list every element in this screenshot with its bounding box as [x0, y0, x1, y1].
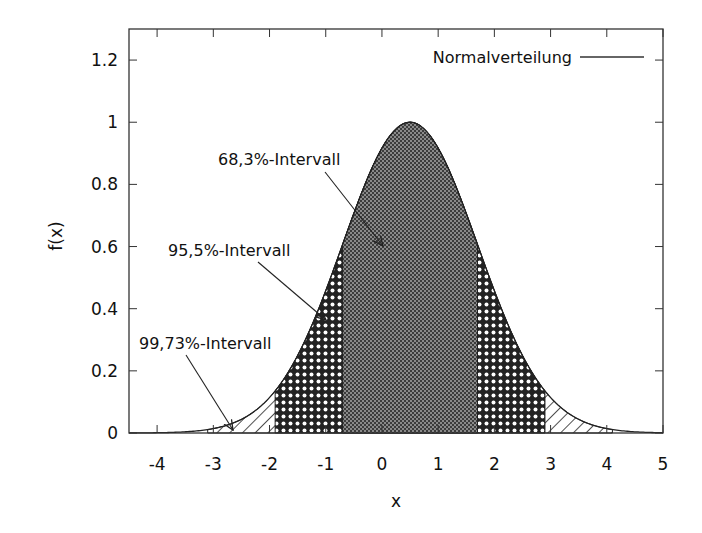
annotation-95: 95,5%-Intervall	[168, 241, 290, 260]
legend-label: Normalverteilung	[433, 48, 572, 67]
x-tick-label: -4	[149, 454, 166, 474]
x-tick-label: 3	[545, 454, 556, 474]
y-tick-label: 0.6	[91, 237, 118, 257]
x-tick-label: 5	[658, 454, 669, 474]
y-tick-label: 1	[107, 112, 118, 132]
y-tick-label: 0.8	[91, 174, 118, 194]
x-tick-label: -3	[205, 454, 222, 474]
x-tick-label: 1	[433, 454, 444, 474]
x-tick-label: 0	[377, 454, 388, 474]
x-axis-label: x	[391, 491, 401, 511]
x-tick-label: 2	[489, 454, 500, 474]
normal-distribution-chart: -4-3-2-101234500.20.40.60.811.2 Normalve…	[0, 0, 702, 533]
x-tick-label: 4	[601, 454, 612, 474]
arrow	[258, 262, 326, 320]
y-tick-label: 0.2	[91, 361, 118, 381]
annotation-68: 68,3%-Intervall	[218, 150, 340, 169]
y-tick-label: 0	[107, 423, 118, 443]
y-tick-label: 0.4	[91, 299, 118, 319]
x-tick-label: -1	[317, 454, 334, 474]
y-tick-label: 1.2	[91, 50, 118, 70]
y-axis-label: f(x)	[46, 221, 66, 250]
arrow	[186, 355, 233, 430]
annotation-99: 99,73%-Intervall	[139, 334, 272, 353]
x-tick-label: -2	[261, 454, 278, 474]
interval-area	[343, 122, 478, 433]
